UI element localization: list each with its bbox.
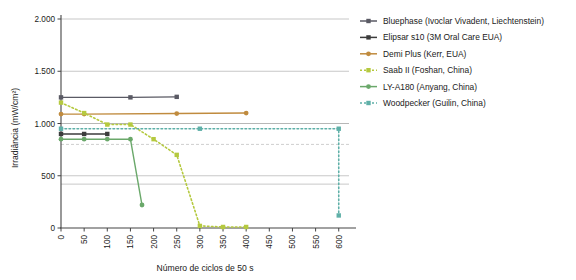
x-tick-label-0: 0	[57, 235, 66, 240]
series-marker-3-4	[151, 137, 155, 141]
series-marker-4-4	[140, 203, 145, 208]
series-4	[59, 137, 145, 208]
series-line-4	[61, 139, 142, 205]
x-tick-label-250: 250	[173, 235, 182, 249]
series-line-3	[61, 103, 246, 227]
series-marker-3-7	[221, 225, 225, 229]
series-marker-3-1	[82, 111, 86, 115]
series-marker-3-6	[198, 224, 202, 228]
series-marker-2-0	[59, 112, 64, 117]
x-tick-label-50: 50	[80, 235, 89, 245]
series-marker-3-5	[175, 153, 179, 157]
series-marker-4-1	[82, 137, 87, 142]
y-tick-label-2000: 2.000	[35, 15, 56, 24]
legend-label-4: LY-A180 (Anyang, China)	[383, 82, 477, 92]
series-marker-4-3	[128, 137, 133, 142]
series-marker-5-1	[198, 127, 202, 131]
x-tick-label-600: 600	[335, 235, 344, 249]
data-series	[59, 95, 341, 230]
series-2	[59, 111, 249, 117]
series-marker-3-8	[244, 225, 248, 229]
series-1	[59, 132, 110, 136]
series-marker-0-2	[175, 95, 179, 99]
legend-swatch-marker-4	[366, 84, 371, 89]
legend-swatch-marker-0	[366, 19, 370, 23]
legend-swatch-marker-3	[366, 68, 370, 72]
legend-label-1: Elipsar s10 (3M Oral Care EUA)	[383, 32, 502, 42]
series-marker-3-0	[59, 100, 63, 104]
x-tick-label-350: 350	[219, 235, 228, 249]
x-tick-label-450: 450	[265, 235, 274, 249]
legend-label-3: Saab II (Foshan, China)	[383, 65, 472, 75]
x-axis-ticks: 050100150200250300350400450500550600	[57, 228, 344, 249]
series-marker-5-2	[337, 127, 341, 131]
series-marker-0-0	[59, 95, 63, 99]
series-marker-5-3	[337, 213, 341, 217]
x-tick-label-200: 200	[150, 235, 159, 249]
series-line-2	[61, 113, 246, 114]
series-line-5	[61, 129, 339, 216]
chart-figure: 05001.0001.5002.000 05010015020025030035…	[0, 0, 576, 280]
legend-label-5: Woodpecker (Guilin, China)	[383, 98, 486, 108]
series-0	[59, 95, 179, 100]
legend: Bluephase (Ivoclar Vivadent, Liechtenste…	[360, 16, 544, 108]
series-marker-4-0	[59, 137, 64, 142]
x-tick-label-100: 100	[103, 235, 112, 249]
series-5	[59, 127, 341, 218]
x-tick-label-500: 500	[288, 235, 297, 249]
y-tick-label-0: 0	[50, 224, 55, 233]
series-marker-0-1	[128, 95, 132, 99]
reference-lines	[61, 124, 349, 185]
axes	[60, 15, 356, 228]
series-marker-1-0	[59, 132, 63, 136]
y-tick-label-1000: 1.000	[35, 120, 56, 129]
x-tick-label-150: 150	[126, 235, 135, 249]
y-tick-label-1500: 1.500	[35, 67, 56, 76]
series-marker-2-2	[174, 111, 179, 116]
series-marker-4-2	[105, 137, 110, 142]
legend-swatch-marker-2	[366, 51, 371, 56]
series-marker-5-0	[59, 127, 63, 131]
series-3	[59, 100, 249, 229]
x-tick-label-550: 550	[312, 235, 321, 249]
y-axis-ticks: 05001.0001.5002.000	[35, 15, 62, 233]
x-tick-label-300: 300	[196, 235, 205, 249]
irradiance-line-chart: 05001.0001.5002.000 05010015020025030035…	[0, 0, 576, 280]
legend-swatch-marker-1	[366, 35, 370, 39]
legend-label-0: Bluephase (Ivoclar Vivadent, Liechtenste…	[383, 16, 544, 26]
legend-label-2: Demi Plus (Kerr, EUA)	[383, 49, 467, 59]
series-marker-1-1	[82, 132, 86, 136]
legend-swatch-marker-5	[366, 101, 370, 105]
x-axis-title: Número de ciclos de 50 s	[157, 263, 254, 273]
series-marker-3-3	[128, 122, 132, 126]
series-marker-2-3	[244, 111, 249, 116]
series-line-0	[61, 97, 177, 98]
series-marker-1-2	[105, 132, 109, 136]
y-axis-title: Irradiância (mW/cm²)	[10, 88, 20, 168]
x-tick-label-400: 400	[242, 235, 251, 249]
y-tick-label-500: 500	[41, 172, 55, 181]
series-marker-3-2	[105, 122, 109, 126]
